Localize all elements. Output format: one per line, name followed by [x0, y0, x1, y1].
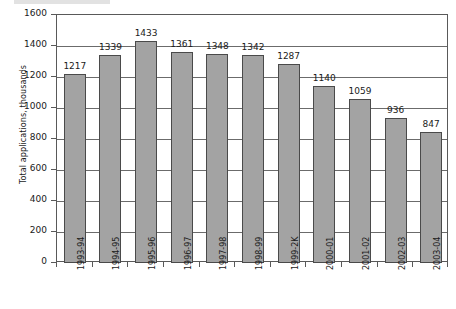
bar — [64, 74, 86, 263]
y-tick-label: 1400 — [1, 40, 47, 49]
bar — [278, 64, 300, 263]
x-tick-mark — [199, 262, 200, 267]
x-category-label: 2000-01 — [327, 237, 335, 270]
x-tick-mark — [127, 262, 128, 267]
x-category-label: 2003-04 — [434, 237, 442, 270]
bar — [99, 55, 121, 263]
bar — [242, 55, 264, 263]
x-category-label: 1998-99 — [256, 237, 264, 270]
x-category-label: 1995-96 — [149, 237, 157, 270]
x-tick-mark — [305, 262, 306, 267]
x-axis: 1993-941994-951995-961996-971997-981998-… — [56, 262, 448, 309]
x-tick-mark — [163, 262, 164, 267]
x-category-label: 1999-2K — [292, 236, 300, 270]
bar — [135, 41, 157, 263]
bar-value-label: 1287 — [269, 52, 309, 61]
x-tick-mark — [377, 262, 378, 267]
bar-chart: Total applications, thousands 0200400600… — [0, 0, 456, 309]
x-category-label: 1993-94 — [78, 237, 86, 270]
x-category-label: 1997-98 — [220, 237, 228, 270]
y-tick-label: 1600 — [1, 9, 47, 18]
bar-value-label: 936 — [376, 106, 416, 115]
bar-value-label: 1361 — [162, 40, 202, 49]
y-tick-label: 600 — [1, 164, 47, 173]
bar-value-label: 1342 — [233, 43, 273, 52]
bar-value-label: 1339 — [90, 43, 130, 52]
bar-value-label: 847 — [411, 120, 451, 129]
x-tick-mark — [270, 262, 271, 267]
y-tick-label: 0 — [1, 257, 47, 266]
bar-value-label: 1059 — [340, 87, 380, 96]
bar-value-label: 1140 — [304, 74, 344, 83]
x-category-label: 1994-95 — [113, 237, 121, 270]
x-tick-mark — [412, 262, 413, 267]
bar — [171, 52, 193, 263]
bar-value-label: 1433 — [126, 29, 166, 38]
x-category-label: 2001-02 — [363, 237, 371, 270]
x-tick-mark — [447, 262, 448, 267]
x-category-label: 2002-03 — [399, 237, 407, 270]
y-tick-label: 800 — [1, 133, 47, 142]
x-tick-mark — [92, 262, 93, 267]
y-tick-label: 200 — [1, 226, 47, 235]
bar-value-label: 1217 — [55, 62, 95, 71]
y-tick-label: 1000 — [1, 102, 47, 111]
x-tick-mark — [56, 262, 57, 267]
y-tick-label: 1200 — [1, 71, 47, 80]
x-tick-mark — [234, 262, 235, 267]
plot-area: 1217133914331361134813421287114010599368… — [56, 14, 448, 262]
bar-value-label: 1348 — [197, 42, 237, 51]
y-tick-label: 400 — [1, 195, 47, 204]
y-axis: 02004006008001000120014001600 — [0, 14, 56, 262]
x-tick-mark — [341, 262, 342, 267]
bar — [206, 54, 228, 263]
x-category-label: 1996-97 — [185, 237, 193, 270]
